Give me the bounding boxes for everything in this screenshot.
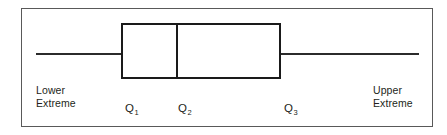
q2-base: Q: [178, 102, 187, 114]
interquartile-range-box: [121, 23, 281, 79]
figure-frame: Lower Extreme Upper Extreme Q1 Q2 Q3: [21, 8, 433, 127]
q3-subscript: 3: [294, 108, 298, 117]
q3-label: Q3: [284, 102, 297, 114]
box-plot-diagram: Lower Extreme Upper Extreme Q1 Q2 Q3: [0, 0, 447, 135]
q1-subscript: 1: [135, 108, 139, 117]
median-divider-line: [176, 23, 178, 79]
lower-extreme-label: Lower Extreme: [36, 84, 76, 110]
q3-base: Q: [284, 102, 293, 114]
q1-label: Q1: [125, 102, 138, 114]
q2-subscript: 2: [188, 108, 192, 117]
q1-base: Q: [125, 102, 134, 114]
upper-extreme-label: Upper Extreme: [373, 84, 413, 110]
q2-label: Q2: [178, 102, 191, 114]
